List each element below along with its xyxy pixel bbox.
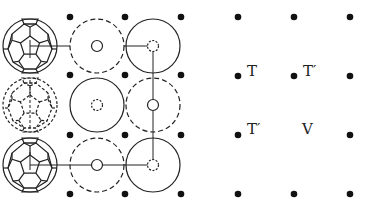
site-circle-r2c2-solid xyxy=(70,78,124,132)
label-T-prime-bottom: T′ xyxy=(247,120,261,138)
inner-circle-r2c3 xyxy=(148,100,159,111)
label-T-prime-top: T′ xyxy=(303,62,317,80)
fullerene-lattice-diagram: T T′ T′ V xyxy=(0,0,367,207)
inner-circle-r3c3-dashed xyxy=(148,160,159,171)
label-V: V xyxy=(301,120,314,138)
inner-circle-r1c2 xyxy=(92,41,103,52)
inner-circle-r2c2-dashed xyxy=(92,100,103,111)
inner-circle-r1c3-dashed xyxy=(148,41,159,52)
label-T: T xyxy=(247,62,257,80)
right-lattice-dots xyxy=(235,14,354,198)
left-panel xyxy=(3,19,180,192)
inner-circle-r3c2 xyxy=(92,160,103,171)
